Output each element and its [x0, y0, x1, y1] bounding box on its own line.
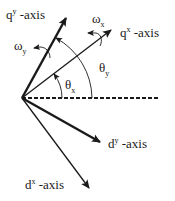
qy-axis-label: qy -axis [6, 7, 45, 22]
qy-axis-arrow [22, 18, 66, 98]
theta-y-label: θy [99, 60, 109, 78]
omega-y-label: ωy [14, 38, 27, 56]
omega-x-label: ωx [92, 11, 105, 29]
dx-axis-arrow [22, 98, 89, 188]
theta-x-label: θx [65, 77, 75, 95]
theta-x-arc [54, 74, 62, 98]
axes-diagram: qy -axis qx -axis dy -axis dx -axis θx θ… [0, 0, 175, 201]
dy-axis-label: dy -axis [108, 136, 147, 151]
qx-axis-label: qx -axis [120, 25, 159, 40]
dx-axis-label: dx -axis [25, 177, 64, 192]
dy-axis-arrow [22, 98, 100, 142]
